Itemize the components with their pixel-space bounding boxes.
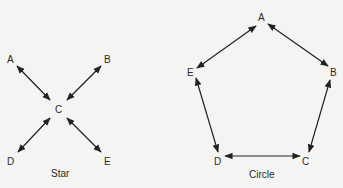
node-a: A [7,54,14,65]
edge-e-a [197,26,256,68]
node-b: B [104,54,111,65]
node-d: D [7,156,14,167]
node-c: C [302,156,309,167]
network-topology-diagram: A B C D E Star A B C D E Circle [0,0,343,188]
edge-e-c [67,118,101,152]
node-b: B [330,67,337,78]
node-e: E [104,156,111,167]
caption-circle: Circle [249,169,275,180]
node-c: C [55,104,62,115]
node-d: D [214,156,221,167]
circle-topology: A B C D E Circle [187,12,337,180]
edge-b-c [309,80,330,152]
node-e: E [187,67,194,78]
edge-b-c [67,66,101,100]
node-a: A [258,12,265,23]
edge-a-b [268,24,328,66]
star-topology: A B C D E Star [7,54,111,179]
edge-a-c [17,66,50,100]
edge-d-c [18,118,50,152]
caption-star: Star [51,168,70,179]
edge-d-e [196,78,218,152]
